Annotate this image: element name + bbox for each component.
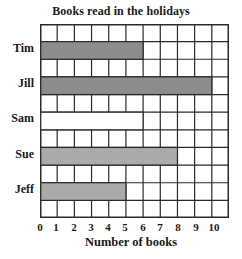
bar-tim [41,42,143,60]
bar-sam [41,112,143,130]
bar-jill [41,77,212,95]
plot-area [40,24,229,218]
x-tick: 5 [117,221,133,233]
x-tick: 0 [32,221,48,233]
category-label-jill: Jill [0,76,34,90]
chart-title: Books read in the holidays [0,4,242,19]
x-tick: 1 [48,221,64,233]
bar-grid [40,24,229,218]
x-tick: 3 [83,221,99,233]
x-tick: 9 [188,221,204,233]
x-tick: 8 [170,221,186,233]
x-tick: 6 [135,221,151,233]
x-tick: 10 [206,221,222,233]
category-label-jeff: Jeff [0,182,34,196]
x-tick: 2 [66,221,82,233]
x-tick: 4 [100,221,116,233]
x-axis-label: Number of books [0,235,242,250]
x-tick: 7 [152,221,168,233]
bar-sue [41,147,178,165]
bar-jeff [41,183,126,201]
category-label-tim: Tim [0,41,34,55]
category-label-sue: Sue [0,147,34,161]
category-label-sam: Sam [0,111,34,125]
